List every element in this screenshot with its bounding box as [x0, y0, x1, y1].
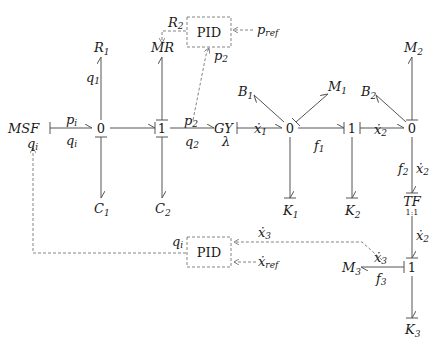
signals: [33, 30, 382, 262]
element-k2: K2: [344, 203, 361, 220]
element-m3: M3: [341, 260, 361, 277]
label-x2dot-tf: ẋ2: [416, 228, 429, 244]
element-k1: K1: [282, 203, 298, 220]
pid-controller-bottom: PID: [187, 237, 231, 267]
msf-signal-label: qi: [27, 136, 38, 152]
element-m1: M1: [327, 79, 347, 96]
element-c1: C1: [94, 201, 110, 218]
junction-1c: 1: [408, 260, 416, 275]
pid-controller-top: PID: [187, 17, 231, 47]
label-f3: f3: [375, 271, 387, 287]
label-p2-signal: p2: [214, 48, 228, 64]
bond-labels: pi qi q1 p2 q2 ẋ1 f1 ẋ2 f2 ẋ2 ẋ2 ẋ3 f3: [66, 70, 429, 287]
label-x2dot-vertical: ẋ2: [416, 161, 429, 177]
label-x1dot: ẋ1: [254, 121, 267, 137]
label-q1: q1: [86, 70, 100, 86]
label-pi: pi: [66, 112, 77, 128]
junction-0b: 0: [286, 121, 294, 136]
element-c2: C2: [155, 201, 171, 218]
pid-label: PID: [197, 245, 221, 260]
label-x3dot-signal: ẋ3: [258, 225, 271, 241]
bond-0b-b1: [254, 95, 284, 122]
element-b2: B2: [360, 84, 377, 101]
junction-0c: 0: [408, 121, 416, 136]
label-qi: qi: [66, 133, 77, 149]
label-x2dot-horizontal: ẋ2: [374, 122, 387, 138]
signal-p2-to-pid: [193, 48, 209, 120]
element-b1: B1: [237, 84, 253, 101]
transformer: TF: [403, 194, 422, 209]
label-r2: R2: [167, 15, 184, 31]
label-qi-signal: qi: [172, 234, 183, 250]
element-m2: M2: [403, 40, 423, 57]
label-xref-signal: ẋref: [258, 254, 280, 270]
signal-x3dot-to-pid: [234, 242, 382, 260]
label-q2: q2: [185, 134, 199, 150]
bond-0b-m1: [296, 94, 328, 122]
junction-1b: 1: [348, 121, 356, 136]
msf-source: MSF: [7, 121, 40, 136]
element-mr: MR: [150, 40, 174, 55]
gyrator-param: λ: [221, 134, 230, 149]
label-p2: p2: [184, 113, 198, 129]
junction-0a: 0: [97, 121, 105, 136]
element-r1: R1: [93, 40, 110, 57]
transformer-ratio: 1:1: [406, 208, 419, 217]
label-f2: f2: [397, 161, 409, 177]
element-k3: K3: [404, 322, 421, 339]
bond-graph-diagram: PID PID MSF qi 0 1 GY λ 0 1 0 TF 1:1 1 R…: [0, 0, 445, 352]
junction-1a: 1: [158, 121, 166, 136]
nodes: MSF qi 0 1 GY λ 0 1 0 TF 1:1 1 R1 MR C1 …: [7, 40, 423, 339]
label-x3dot-bond: ẋ3: [374, 250, 387, 266]
pid-label: PID: [197, 25, 221, 40]
label-f1: f1: [313, 138, 325, 154]
label-pref: pref: [257, 22, 280, 38]
bond-0c-b2: [376, 95, 406, 122]
